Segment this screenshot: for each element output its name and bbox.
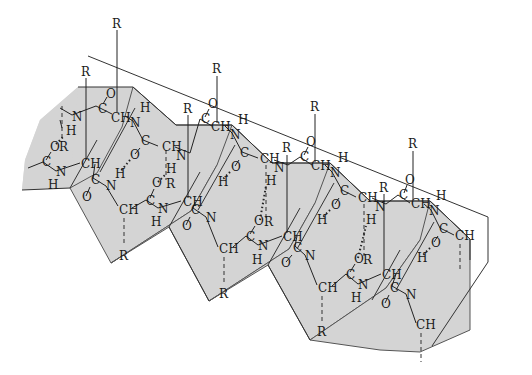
r-group-label: R [219,287,229,301]
r-group-label: R [212,62,222,76]
atom-label: N [176,149,187,163]
atom-label: H [115,167,125,181]
atom-label: H [436,189,446,203]
atom-label: N [72,110,83,124]
atom-label: O [152,176,162,190]
atom-label: C [191,203,200,217]
atom-label: N [330,166,341,180]
atom-label: N [305,249,316,263]
atom-label: N [56,165,67,179]
atom-label: N [375,200,386,214]
atom-label: CH [411,197,431,211]
atom-label: CH [318,281,338,295]
atom-label: O [231,160,241,174]
atom-label: C [346,268,355,282]
atom-label: H [48,178,58,192]
atom-label: C [98,102,107,116]
atom-label: C [390,281,399,295]
r-group-label: R [166,177,176,191]
atom-label: N [406,288,417,302]
atom-label: C [246,230,255,244]
atom-label: N [158,202,169,216]
atom-label: O [381,297,391,311]
atom-label: H [151,215,161,229]
atom-label: O [130,148,140,162]
r-group-label: R [81,65,91,79]
atom-label: H [351,291,361,305]
atom-label: N [258,239,269,253]
atom-label: C [201,112,210,126]
r-group-label: R [119,249,129,263]
atom-label: O [254,214,264,228]
atom-label: H [317,213,327,227]
r-group-label: R [379,181,389,195]
r-group-label: R [408,137,418,151]
atom-label: C [300,150,309,164]
atom-label: H [366,213,376,227]
atom-label: N [106,179,117,193]
beta-sheet-diagram: N C O CH H N H O C N H CH C O CH H N H C… [0,0,532,375]
atom-label: H [252,253,262,267]
atom-label: O [208,97,218,111]
atom-label: C [91,173,100,187]
r-group-label: R [363,253,373,267]
atom-label: H [66,124,76,138]
atom-label: O [281,256,291,270]
r-group-label: R [112,17,122,31]
atom-label: O [405,173,415,187]
atom-label: C [340,184,349,198]
atom-label: N [230,128,241,142]
atom-label: C [293,241,302,255]
atom-label: C [399,188,408,202]
atom-label: C [42,155,51,169]
r-group-label: R [183,102,193,116]
r-group-label: R [310,100,320,114]
atom-label: CH [81,157,101,171]
atom-label: C [439,222,448,236]
atom-label: H [218,175,228,189]
atom-label: CH [416,318,436,332]
atom-label: H [140,101,150,115]
atom-label: O [82,190,92,204]
atom-label: O [106,87,116,101]
atom-label: N [206,211,217,225]
atom-label: N [429,204,440,218]
atom-label: O [331,198,341,212]
atom-label: N [358,278,369,292]
atom-label: CH [119,203,139,217]
atom-label: H [238,113,248,127]
atom-label: O [431,236,441,250]
atom-label: C [240,146,249,160]
r-group-label: R [264,215,274,229]
r-group-label: R [317,325,327,339]
atom-label: H [417,251,427,265]
atom-label: C [141,134,150,148]
r-group-label: R [282,141,292,155]
atom-label: CH [211,120,231,134]
atom-label: CH [111,111,131,125]
atom-label: CH [219,242,239,256]
atom-label: H [338,151,348,165]
atom-label: CH [382,268,402,282]
atom-label: CH [311,159,331,173]
r-group-label: R [59,140,69,154]
atom-label: CH [455,229,475,243]
atom-label: H [266,174,276,188]
atom-label: O [306,135,316,149]
atom-label: H [166,162,176,176]
atom-label: O [182,219,192,233]
atom-label: N [274,161,285,175]
atom-label: C [146,194,155,208]
atom-label: N [130,116,141,130]
